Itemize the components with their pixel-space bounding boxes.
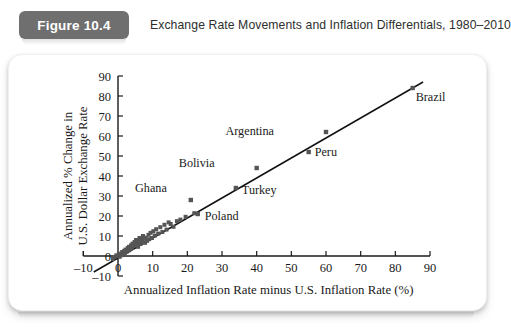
data-point	[178, 218, 182, 222]
point-label-bolivia: Bolivia	[179, 156, 215, 170]
x-tick-label: 50	[285, 261, 298, 275]
point-label-peru: Peru	[315, 145, 337, 159]
x-tick-label: 60	[320, 261, 333, 275]
y-tick-label: 60	[99, 130, 112, 144]
x-tick-label: 40	[250, 261, 263, 275]
data-point-bolivia	[254, 166, 258, 170]
x-tick-label: 80	[389, 261, 402, 275]
data-point-argentina	[324, 130, 328, 134]
data-point	[162, 223, 166, 227]
point-label-brazil: Brazil	[416, 90, 446, 104]
data-point	[184, 215, 188, 219]
data-point	[154, 227, 158, 231]
y-tick-label: 80	[99, 90, 112, 104]
data-point	[160, 230, 164, 234]
data-point	[165, 228, 169, 232]
data-point	[153, 234, 157, 238]
x-tick-label: 90	[424, 261, 437, 275]
x-axis-title: Annualized Inflation Rate minus U.S. Inf…	[124, 283, 414, 297]
x-tick-label: 10	[146, 261, 159, 275]
x-tick-label: 0	[115, 261, 121, 275]
x-tick-label: 20	[181, 261, 194, 275]
y-tick-label: 90	[99, 70, 112, 84]
point-label-argentina: Argentina	[225, 124, 274, 138]
point-labels: BrazilArgentinaPeruBoliviaTurkeyGhanaPol…	[135, 90, 446, 223]
x-tick-label: –10	[73, 261, 93, 275]
data-point-brazil	[410, 86, 414, 90]
x-tick-label: 30	[216, 261, 229, 275]
data-point-turkey	[234, 186, 238, 190]
point-label-turkey: Turkey	[242, 183, 278, 197]
data-point	[158, 225, 162, 229]
data-point-poland	[196, 212, 200, 216]
y-tick-label: 50	[99, 150, 112, 164]
y-axis-title-line2: U.S. Dollar Exchange Rate	[76, 106, 90, 245]
point-label-ghana: Ghana	[135, 181, 167, 195]
y-tick-label: 70	[99, 110, 112, 124]
point-label-poland: Poland	[205, 209, 239, 223]
data-points	[111, 86, 415, 261]
x-tick-label: 70	[354, 261, 367, 275]
data-point	[156, 232, 160, 236]
data-point-ghana	[189, 198, 193, 202]
data-point	[175, 219, 179, 223]
data-point	[171, 225, 175, 229]
y-tick-label: 40	[99, 170, 112, 184]
data-point-peru	[306, 150, 310, 154]
y-tick-label: 0	[105, 250, 111, 264]
y-axis-title-line1: Annualized % Change in	[61, 111, 75, 240]
y-tick-label: 30	[99, 190, 112, 204]
y-tick-label: 10	[99, 230, 112, 244]
y-tick-label: 20	[99, 210, 112, 224]
